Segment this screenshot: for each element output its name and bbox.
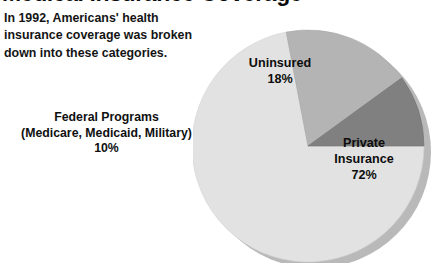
intro-paragraph: In 1992, Americans' health insurance cov… [4,10,209,62]
pie-chart: Uninsured 18% Private Insurance 72% [193,24,433,263]
federal-programs-detail: (Medicare, Medicaid, Military) [0,126,213,142]
page-title: Medical Insurance Coverage [2,0,432,8]
private-insurance-slice-label: Private Insurance 72% [309,136,419,183]
private-insurance-name-line1: Private [309,136,419,152]
private-insurance-name-line2: Insurance [309,152,419,168]
uninsured-name: Uninsured [225,56,335,72]
private-insurance-value: 72% [309,168,419,184]
uninsured-slice-label: Uninsured 18% [225,56,335,88]
federal-programs-callout: Federal Programs (Medicare, Medicaid, Mi… [0,110,213,157]
federal-programs-name: Federal Programs [0,110,213,126]
federal-programs-value: 10% [0,141,213,157]
uninsured-value: 18% [225,72,335,88]
chart-page: Medical Insurance Coverage In 1992, Amer… [0,0,433,263]
